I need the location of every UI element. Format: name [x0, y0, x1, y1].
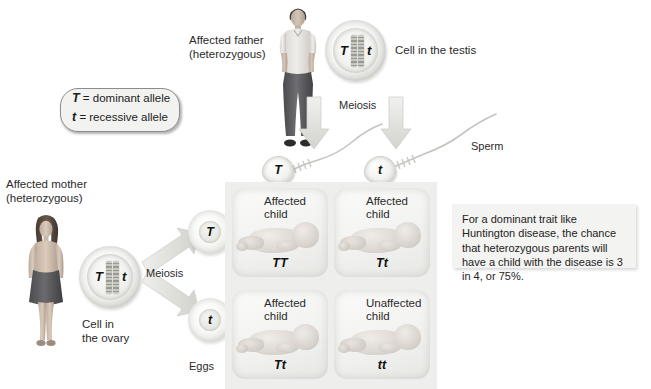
- info-callout: For a dominant trait like Huntington dis…: [452, 204, 636, 268]
- testis-allele-recessive: t: [367, 43, 371, 58]
- info-callout-text: For a dominant trait like Huntington dis…: [452, 204, 636, 283]
- offspring-genotype-1: TT: [232, 256, 328, 270]
- baby-illustration: [236, 220, 324, 260]
- mother-figure: [18, 212, 74, 352]
- egg-nucleus-T: T: [199, 221, 221, 243]
- offspring-genotype-2: Tt: [334, 256, 430, 270]
- egg-allele-T: T: [206, 225, 214, 239]
- legend-recessive-symbol: t: [72, 110, 76, 124]
- mother-meiosis-label: Meiosis: [146, 267, 183, 280]
- baby-illustration: [236, 322, 324, 362]
- sperm-allele-t: t: [365, 157, 395, 183]
- offspring-status-1: Affected child: [264, 195, 306, 221]
- chromosome-t: [358, 35, 364, 67]
- father-label: Affected father (heterozygous): [189, 34, 284, 61]
- sperm-tail-t: [392, 110, 532, 172]
- sperm-head-T: T: [262, 156, 294, 184]
- ovary-cell: T t: [79, 246, 141, 308]
- chromosome-T: [351, 35, 357, 67]
- offspring-card-1: Affected child TT: [232, 188, 328, 277]
- offspring-panel: Affected child TT Affected child Tt Affe…: [225, 182, 437, 389]
- eggs-label: Eggs: [189, 360, 214, 373]
- offspring-card-3: Affected child Tt: [232, 290, 328, 379]
- offspring-card-4: Unaffected child tt: [334, 290, 430, 379]
- legend-recessive-text: = recessive allele: [79, 111, 168, 123]
- offspring-status-2: Affected child: [366, 195, 408, 221]
- offspring-genotype-4: tt: [334, 358, 430, 372]
- egg-nucleus-t: t: [199, 309, 221, 331]
- ovary-allele-recessive: t: [122, 269, 126, 284]
- testis-cell: T t: [325, 20, 386, 81]
- offspring-status-4: Unaffected child: [366, 297, 421, 323]
- sperm-head-t: t: [364, 156, 396, 184]
- legend-dominant-text: = dominant allele: [83, 92, 170, 104]
- legend-recessive-row: t = recessive allele: [61, 108, 179, 127]
- offspring-genotype-3: Tt: [232, 358, 328, 372]
- legend-dominant-symbol: T: [72, 91, 80, 105]
- testis-allele-dominant: T: [340, 43, 348, 58]
- testis-cell-label: Cell in the testis: [395, 44, 515, 58]
- chromosome-T: [106, 261, 112, 294]
- offspring-status-3: Affected child: [264, 297, 306, 323]
- chromosome-t: [113, 261, 119, 294]
- egg-allele-t: t: [208, 313, 212, 327]
- sperm-label: Sperm: [471, 140, 503, 153]
- mother-figure-svg: [18, 212, 74, 352]
- offspring-card-2: Affected child Tt: [334, 188, 430, 277]
- sperm-allele-T: T: [263, 157, 293, 183]
- legend-dominant-row: T = dominant allele: [61, 89, 179, 108]
- allele-legend-box: T = dominant allele t = recessive allele: [60, 88, 180, 132]
- ovary-allele-dominant: T: [95, 269, 103, 284]
- genetics-diagram: T = dominant allele t = recessive allele…: [0, 0, 651, 389]
- father-meiosis-label: Meiosis: [339, 99, 376, 112]
- baby-illustration: [338, 220, 426, 260]
- baby-illustration: [338, 322, 426, 362]
- mother-label: Affected mother (heterozygous): [6, 178, 106, 205]
